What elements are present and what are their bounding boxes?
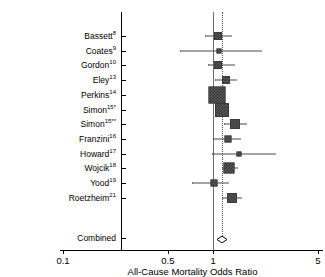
y-axis-tick [121,95,126,96]
study-reference-superscript: 16 [109,133,116,139]
ci-cap-right [261,50,262,51]
ci-cap-left [224,124,225,125]
y-axis-tick [121,168,126,169]
x-axis-tick [168,250,169,254]
study-reference-superscript: 18 [109,162,116,168]
ci-cap-right [228,183,229,184]
study-effect-box [215,103,229,117]
study-effect-box [230,119,240,129]
study-label: Roetzheim21 [0,193,116,202]
study-label: Simon15* [0,105,116,114]
x-axis-tick [213,250,214,254]
x-axis-title: All-Cause Mortality Odds Ratio [128,266,258,277]
ci-cap-left [205,36,206,37]
ci-cap-left [208,65,209,66]
ci-cap-right [275,153,276,154]
study-effect-box [208,86,225,103]
study-reference-superscript: 19 [109,177,116,183]
study-effect-box [222,76,230,84]
ci-cap-right [237,168,238,169]
ci-cap-right [234,65,235,66]
study-reference-superscript: 15* [107,103,116,109]
y-axis-tick [121,110,126,111]
x-axis-tick-label: 5 [315,255,320,266]
y-axis-tick [121,139,126,140]
study-effect-box [236,151,241,156]
study-label: Howard17 [0,149,116,158]
y-axis-spine [121,12,122,250]
x-axis-tick-label: 0.1 [56,255,69,266]
ci-cap-left [192,183,193,184]
y-axis-tick [121,80,126,81]
x-axis-line [60,250,323,251]
ci-cap-right [241,197,242,198]
x-axis-tick-label: 1 [210,255,215,266]
y-axis-tick [121,198,126,199]
study-reference-superscript: 17 [109,148,116,154]
combined-effect-diamond [217,229,227,247]
ci-cap-left [180,50,181,51]
confidence-interval-line [212,153,275,154]
x-axis-tick [318,250,319,254]
ci-cap-left [215,80,216,81]
study-label: Bassett8 [0,32,116,41]
combined-label: Combined [0,234,116,243]
study-effect-box [224,163,235,174]
study-effect-box [227,193,237,203]
study-effect-box [225,135,232,142]
ci-cap-left [213,138,214,139]
ci-cap-left [222,197,223,198]
study-effect-box [217,48,222,53]
forest-plot-figure: Bassett8Coates9Gordon10Eley13Perkins14Si… [0,0,325,277]
study-reference-superscript: 10 [109,59,116,65]
y-axis-tick [121,154,126,155]
x-axis-tick-label: 0.5 [161,255,174,266]
study-label: Perkins14 [0,91,116,100]
study-label: Yood19 [0,179,116,188]
study-label: Franzini16 [0,135,116,144]
study-reference-superscript: 21 [109,192,116,198]
study-label: Simon15** [0,120,116,129]
study-reference-superscript: 15** [105,118,116,124]
y-axis-tick [121,51,126,52]
y-axis-tick [121,65,126,66]
reference-line-or-1 [213,12,214,250]
y-axis-tick [121,124,126,125]
ci-cap-left [212,153,213,154]
study-reference-superscript: 9 [113,45,116,51]
study-effect-box [214,61,222,69]
plot-area: Bassett8Coates9Gordon10Eley13Perkins14Si… [0,0,325,277]
study-label: Eley13 [0,76,116,85]
ci-cap-right [246,124,247,125]
ci-cap-right [240,138,241,139]
study-reference-superscript: 8 [113,30,116,36]
study-label: Coates9 [0,46,116,55]
study-label: Wojcik18 [0,164,116,173]
study-reference-superscript: 13 [109,74,116,80]
study-label: Gordon10 [0,61,116,70]
ci-cap-right [236,80,237,81]
study-effect-box [211,180,218,187]
study-reference-superscript: 14 [109,89,116,95]
y-axis-tick [121,183,126,184]
pooled-effect-line [222,12,223,242]
y-axis-tick-combined [121,238,126,239]
x-axis-tick [63,250,64,254]
study-effect-box [214,32,222,40]
ci-cap-right [231,36,232,37]
y-axis-tick [121,36,126,37]
